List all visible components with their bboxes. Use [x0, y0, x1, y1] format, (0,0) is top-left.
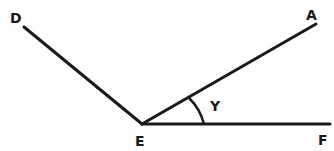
angle-diagram: D A Y E F	[0, 0, 334, 151]
label-A: A	[306, 7, 317, 23]
diagram-svg: D A Y E F	[0, 0, 334, 151]
ray-EA	[142, 24, 316, 124]
angle-arc-Y	[189, 98, 204, 124]
label-Y: Y	[209, 98, 221, 114]
label-F: F	[318, 132, 328, 148]
label-E: E	[135, 133, 145, 149]
ray-ED	[24, 27, 142, 124]
label-D: D	[10, 10, 22, 26]
